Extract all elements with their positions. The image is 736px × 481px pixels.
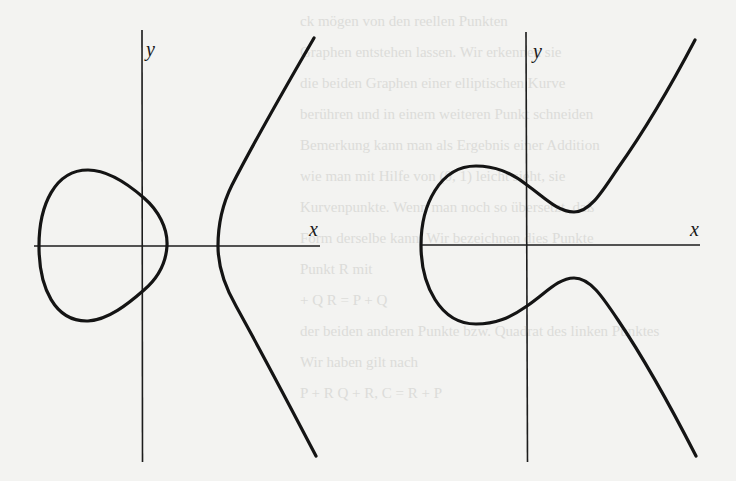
right-connected-curve [421,40,696,456]
left-plot: y x [34,30,320,462]
left-x-axis-label: x [308,218,318,240]
right-plot: y x [420,32,700,462]
elliptic-curves-figure: y x y x [0,0,736,481]
right-x-axis-label: x [689,218,699,240]
right-y-axis-label: y [531,40,542,63]
left-unbounded-branch [218,38,316,456]
right-y-axis [526,32,528,462]
textbook-figure-page: ck mögen von den reellen Punkten Graphen… [0,0,736,481]
left-y-axis-label: y [144,38,155,61]
